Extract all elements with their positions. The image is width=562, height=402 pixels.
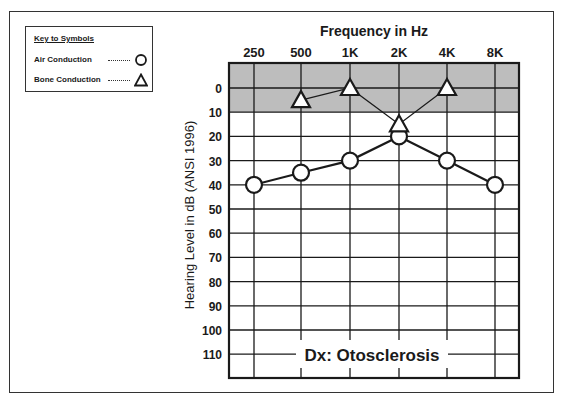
air-conduction-marker — [487, 177, 503, 193]
x-tick-label: 2K — [391, 45, 408, 60]
diagnosis-annotation: Dx: Otosclerosis — [304, 346, 439, 365]
y-tick-label: 10 — [209, 106, 223, 120]
x-axis-title: Frequency in Hz — [320, 23, 428, 39]
y-tick-label: 100 — [202, 324, 222, 338]
y-tick-label: 80 — [209, 276, 223, 290]
x-tick-label: 4K — [439, 45, 456, 60]
y-tick-label: 90 — [209, 300, 223, 314]
x-tick-label: 1K — [342, 45, 359, 60]
x-tick-label: 250 — [243, 45, 265, 60]
y-tick-label: 110 — [203, 348, 223, 362]
air-conduction-marker — [293, 165, 309, 181]
y-tick-label: 20 — [209, 130, 223, 144]
y-axis-title: Hearing Level in dB (ANSI 1996) — [182, 121, 197, 310]
y-tick-label: 50 — [209, 203, 223, 217]
y-tick-label: 30 — [209, 155, 223, 169]
air-conduction-marker — [342, 153, 358, 169]
air-conduction-marker — [246, 177, 262, 193]
y-tick-label: 0 — [215, 82, 222, 96]
y-tick-label: 60 — [209, 227, 223, 241]
audiogram-chart: Dx: Otosclerosis2505001K2K4K8KFrequency … — [0, 0, 562, 402]
x-tick-label: 500 — [290, 45, 312, 60]
y-tick-label: 70 — [209, 251, 223, 265]
x-tick-label: 8K — [487, 45, 504, 60]
bone-conduction-marker — [390, 115, 408, 131]
y-tick-label: 40 — [209, 179, 223, 193]
air-conduction-marker — [439, 153, 455, 169]
